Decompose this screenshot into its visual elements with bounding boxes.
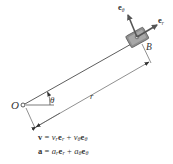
- velocity-equation: v = vrer + vθeθ: [38, 132, 88, 142]
- label-b: B: [146, 42, 152, 52]
- label-theta: θ: [50, 95, 55, 105]
- label-e-r: er: [158, 15, 165, 26]
- label-e-theta: eθ: [118, 2, 125, 13]
- dimension-arrow-o: [36, 113, 60, 127]
- label-o: O: [11, 99, 19, 111]
- label-r: r: [90, 91, 94, 101]
- pivot-o: [21, 103, 25, 107]
- extension-line-o: [26, 108, 35, 128]
- rod: [24, 43, 133, 105]
- acceleration-equation: a = arer + aθeθ: [38, 146, 89, 156]
